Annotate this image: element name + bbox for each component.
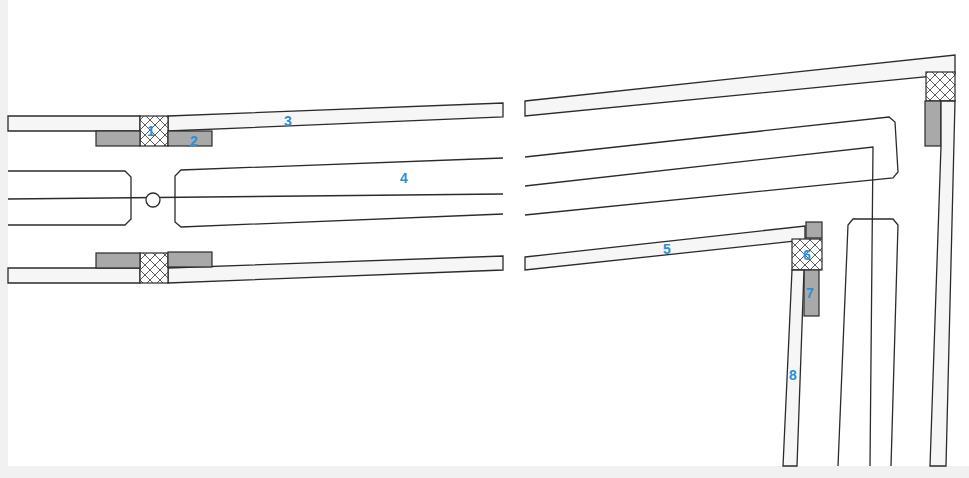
- bottom-slab-right: [168, 256, 503, 283]
- right-wall: [930, 101, 955, 466]
- corner-bearing-pad: [925, 101, 941, 146]
- bearing-pad-left-top: [96, 131, 140, 146]
- pin-hinge: [146, 193, 160, 207]
- label-5: 5: [663, 241, 671, 257]
- girder-loop-outer: [525, 117, 898, 215]
- vertical-girder-a: [838, 219, 898, 466]
- label-4: 4: [400, 170, 408, 186]
- corner-joint-seal: [926, 72, 955, 101]
- bottom-slab-left: [8, 268, 140, 283]
- bearing-pad-6-top: [806, 222, 822, 238]
- label-2: 2: [190, 133, 198, 149]
- label-3: 3: [284, 113, 292, 129]
- bearing-pad-left-bottom: [96, 253, 140, 268]
- label-6: 6: [803, 247, 811, 263]
- top-slab-3: [168, 103, 503, 131]
- girder-4: [175, 158, 503, 227]
- label-8: 8: [789, 367, 797, 383]
- label-1: 1: [147, 123, 155, 139]
- top-slab-right: [525, 55, 955, 116]
- centerline-left: [8, 194, 503, 199]
- bearing-pad-right-bottom: [168, 252, 212, 267]
- top-slab-left: [8, 116, 140, 131]
- cross-section-diagram: 1 2 3 4 5 6 7 8: [0, 0, 969, 478]
- label-7: 7: [806, 285, 814, 301]
- joint-seal-bottom: [140, 253, 168, 283]
- girder-loop-inner: [525, 147, 873, 466]
